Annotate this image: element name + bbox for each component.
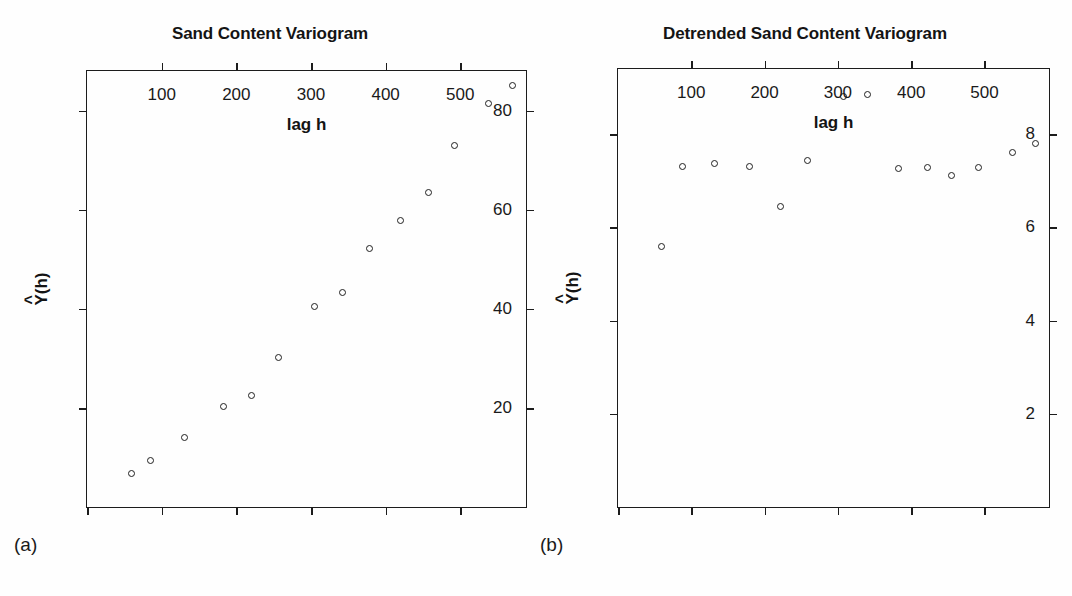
data-point xyxy=(147,457,154,464)
plot-b-frame: lag h ^Y(h) 1002003004005002468 xyxy=(617,68,1050,508)
x-tick-top-200 xyxy=(765,61,767,69)
panel-b-tag: (b) xyxy=(540,534,563,556)
y-tick-label-80: 80 xyxy=(493,101,512,121)
x-tick-label-100: 100 xyxy=(677,83,705,103)
y-tick-label-2: 2 xyxy=(1026,404,1035,424)
x-tick-top-500 xyxy=(460,63,462,71)
x-tick-100 xyxy=(162,507,164,515)
figure-canvas: Sand Content Variogram lag h ^Y(h) 10020… xyxy=(0,0,1072,596)
data-point xyxy=(485,100,492,107)
data-point xyxy=(975,164,982,171)
plot-a-xlabel: lag h xyxy=(87,115,526,135)
panel-b-title: Detrended Sand Content Variogram xyxy=(532,24,1072,44)
x-tick-400 xyxy=(386,507,388,515)
y-tick-label-4: 4 xyxy=(1026,311,1035,331)
y-tick-label-60: 60 xyxy=(493,200,512,220)
y-tick-label-8: 8 xyxy=(1026,124,1035,144)
y-tick-label-40: 40 xyxy=(493,299,512,319)
x-tick-500 xyxy=(460,507,462,515)
x-tick-origin xyxy=(87,507,89,515)
x-tick-300 xyxy=(311,507,313,515)
data-point xyxy=(311,303,318,310)
panel-b: Detrended Sand Content Variogram lag h ^… xyxy=(532,0,1072,596)
y-tick-4 xyxy=(610,321,618,323)
y-tick-2 xyxy=(610,414,618,416)
panel-a: Sand Content Variogram lag h ^Y(h) 10020… xyxy=(0,0,540,596)
x-tick-label-500: 500 xyxy=(970,83,998,103)
hat-accent-icon: ^ xyxy=(553,294,569,303)
plot-a-area xyxy=(87,71,526,507)
data-point xyxy=(1009,149,1016,156)
x-tick-label-400: 400 xyxy=(371,85,399,105)
data-point xyxy=(746,163,753,170)
panel-a-title: Sand Content Variogram xyxy=(0,24,540,44)
y-tick-8 xyxy=(610,134,618,136)
data-point xyxy=(658,243,665,250)
data-point xyxy=(397,217,404,224)
x-tick-origin xyxy=(618,507,620,515)
y-tick-80 xyxy=(79,111,87,113)
x-tick-top-200 xyxy=(236,63,238,71)
x-tick-200 xyxy=(236,507,238,515)
y-tick-label-6: 6 xyxy=(1026,217,1035,237)
x-tick-top-300 xyxy=(838,61,840,69)
y-tick-right-8 xyxy=(1049,134,1057,136)
data-point xyxy=(339,289,346,296)
x-tick-top-500 xyxy=(984,61,986,69)
y-tick-right-2 xyxy=(1049,414,1057,416)
x-tick-200 xyxy=(765,507,767,515)
x-tick-label-500: 500 xyxy=(446,85,474,105)
y-tick-20 xyxy=(79,408,87,410)
y-tick-right-6 xyxy=(1049,227,1057,229)
data-point xyxy=(220,403,227,410)
data-point xyxy=(451,142,458,149)
x-tick-100 xyxy=(691,507,693,515)
y-tick-40 xyxy=(79,309,87,311)
data-point xyxy=(777,203,784,210)
data-point xyxy=(804,157,811,164)
x-tick-top-400 xyxy=(386,63,388,71)
data-point xyxy=(864,91,871,98)
x-tick-top-400 xyxy=(911,61,913,69)
plot-a-frame: lag h ^Y(h) 10020030040050020406080 xyxy=(86,70,527,508)
plot-b-xlabel: lag h xyxy=(618,113,1049,133)
data-point xyxy=(948,172,955,179)
plot-b-ylabel: ^Y(h) xyxy=(563,271,583,304)
data-point xyxy=(128,470,135,477)
y-hat-symbol: ^Y xyxy=(32,294,52,305)
x-tick-label-100: 100 xyxy=(147,85,175,105)
plot-b-area xyxy=(618,69,1049,507)
y-tick-label-20: 20 xyxy=(493,398,512,418)
x-tick-400 xyxy=(911,507,913,515)
y-argument: (h) xyxy=(32,272,51,294)
data-point xyxy=(425,189,432,196)
y-tick-6 xyxy=(610,227,618,229)
x-tick-label-200: 200 xyxy=(750,83,778,103)
y-hat-symbol: ^Y xyxy=(563,293,583,304)
x-tick-label-300: 300 xyxy=(297,85,325,105)
x-tick-top-100 xyxy=(162,63,164,71)
data-point xyxy=(679,163,686,170)
x-tick-label-400: 400 xyxy=(897,83,925,103)
y-argument: (h) xyxy=(563,271,582,293)
data-point xyxy=(895,165,902,172)
panel-a-tag: (a) xyxy=(14,534,37,556)
y-tick-60 xyxy=(79,210,87,212)
x-tick-500 xyxy=(984,507,986,515)
data-point xyxy=(248,392,255,399)
x-tick-label-200: 200 xyxy=(222,85,250,105)
x-tick-label-300: 300 xyxy=(824,83,852,103)
x-tick-top-300 xyxy=(311,63,313,71)
data-point xyxy=(509,82,516,89)
data-point xyxy=(711,160,718,167)
data-point xyxy=(275,354,282,361)
y-tick-right-4 xyxy=(1049,321,1057,323)
hat-accent-icon: ^ xyxy=(22,295,38,304)
data-point xyxy=(181,434,188,441)
data-point xyxy=(924,164,931,171)
data-point xyxy=(366,245,373,252)
plot-a-ylabel: ^Y(h) xyxy=(32,272,52,305)
x-tick-top-100 xyxy=(691,61,693,69)
x-tick-300 xyxy=(838,507,840,515)
